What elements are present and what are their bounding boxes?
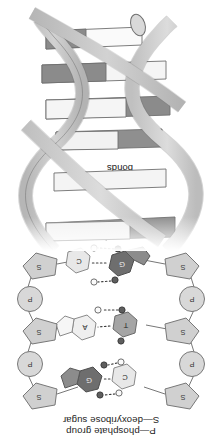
phosphate-left-2: P: [180, 287, 205, 312]
dna-figure: P—phosphate group S—deoxyribose sugar Hy…: [0, 0, 222, 437]
helix-rung-4: [46, 96, 170, 119]
svg-text:S: S: [180, 328, 185, 337]
ladder-helix-fade: [0, 217, 222, 251]
base-thymine-2: T: [113, 312, 137, 337]
base-guanine-3: G: [109, 247, 150, 276]
sugar-right-1: S: [23, 383, 57, 409]
svg-text:P: P: [27, 295, 32, 304]
svg-text:S: S: [36, 263, 41, 272]
svg-text:T: T: [123, 321, 128, 330]
sugar-left-2: S: [165, 318, 199, 344]
base-adenine-2: A: [56, 315, 96, 340]
svg-text:S: S: [180, 393, 185, 402]
svg-text:C: C: [122, 373, 128, 382]
sugar-left-1: S: [165, 383, 199, 409]
svg-text:P: P: [189, 295, 194, 304]
svg-text:P: P: [189, 360, 194, 369]
phosphate-left-1: P: [180, 352, 205, 377]
base-cytosine-1: C: [112, 364, 136, 389]
svg-text:G: G: [86, 376, 92, 385]
svg-text:P: P: [27, 360, 32, 369]
sugar-left-3: S: [165, 253, 199, 279]
base-pair-1: C G: [61, 359, 136, 398]
dna-illustration: C G: [0, 0, 222, 437]
double-helix-section: [0, 12, 222, 251]
backbone-left: S P S P S: [165, 253, 205, 409]
backbone-right: S P S P S: [18, 253, 58, 409]
svg-text:G: G: [119, 260, 125, 269]
sugar-right-2: S: [23, 318, 57, 344]
svg-text:S: S: [36, 328, 41, 337]
base-cytosine-3: C: [66, 248, 90, 273]
phosphate-right-1: P: [18, 352, 43, 377]
sugar-right-3: S: [23, 253, 57, 279]
svg-text:A: A: [82, 323, 88, 332]
svg-text:C: C: [76, 257, 82, 266]
phosphate-right-2: P: [18, 287, 43, 312]
svg-text:S: S: [180, 263, 185, 272]
svg-text:S: S: [36, 393, 41, 402]
base-guanine-1: G: [61, 367, 102, 392]
base-pair-2: T A: [56, 307, 137, 344]
